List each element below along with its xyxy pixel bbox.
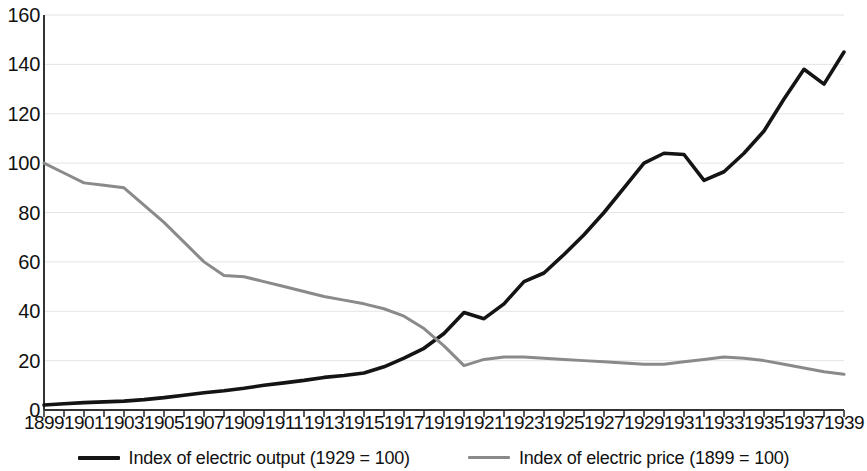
x-axis-tick-label: 1925 — [544, 412, 584, 434]
x-axis-tick-label: 1911 — [265, 412, 303, 434]
legend-label-price: Index of electric price (1899 = 100) — [519, 448, 789, 468]
x-axis-tick-label: 1901 — [64, 412, 104, 434]
x-axis-tick-label: 1909 — [224, 412, 264, 434]
y-axis-tick-label: 60 — [4, 252, 40, 272]
x-axis-tick-label: 1937 — [784, 412, 824, 434]
x-axis-tick-label: 1913 — [304, 412, 344, 434]
chart-legend: Index of electric output (1929 = 100) In… — [0, 444, 867, 471]
x-axis-tick-label: 1929 — [624, 412, 664, 434]
x-axis-tick-label: 1933 — [704, 412, 744, 434]
legend-item-price: Index of electric price (1899 = 100) — [468, 448, 789, 468]
x-axis-tick-labels: 1899190119031905190719091911191319151917… — [0, 412, 867, 440]
y-axis-tick-label: 80 — [4, 203, 40, 223]
x-axis-tick-label: 1931 — [664, 412, 704, 434]
series-line-price — [44, 163, 844, 374]
x-axis-tick-label: 1917 — [384, 412, 424, 434]
x-axis-tick-label: 1935 — [744, 412, 784, 434]
y-axis-tick-label: 140 — [4, 54, 40, 74]
y-axis-tick-label: 100 — [4, 153, 40, 173]
x-axis-tick-label: 1915 — [344, 412, 384, 434]
y-axis-tick-label: 120 — [4, 104, 40, 124]
x-axis-tick-label: 1927 — [584, 412, 624, 434]
x-axis-tick-label: 1899 — [24, 412, 64, 434]
y-axis-tick-label: 20 — [4, 351, 40, 371]
legend-label-output: Index of electric output (1929 = 100) — [129, 448, 410, 468]
plot-area — [0, 0, 867, 471]
y-axis-tick-label: 160 — [4, 5, 40, 25]
line-chart: 020406080100120140160 189919011903190519… — [0, 0, 867, 471]
x-axis-tick-label: 1905 — [144, 412, 184, 434]
y-axis-tick-labels: 020406080100120140160 — [0, 0, 40, 430]
x-axis-tick-label: 1923 — [504, 412, 544, 434]
series-layer — [44, 52, 844, 405]
legend-item-output: Index of electric output (1929 = 100) — [78, 448, 410, 468]
legend-swatch-price — [468, 456, 510, 459]
gridlines — [44, 15, 844, 361]
x-axis-tick-label: 1903 — [104, 412, 144, 434]
series-line-output — [44, 52, 844, 405]
y-axis-tick-label: 40 — [4, 301, 40, 321]
legend-swatch-output — [78, 456, 120, 460]
x-axis-tick-label: 1921 — [464, 412, 504, 434]
x-axis-tick-label: 1907 — [184, 412, 224, 434]
x-axis-tick-label: 1939 — [824, 412, 864, 434]
x-axis-tick-label: 1919 — [424, 412, 464, 434]
